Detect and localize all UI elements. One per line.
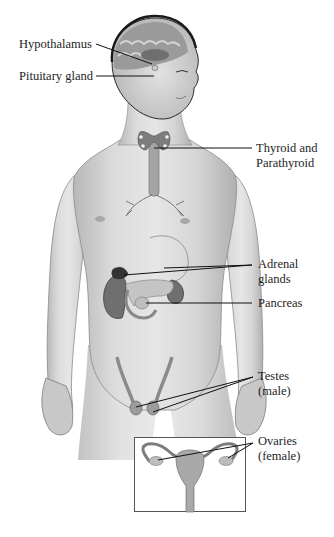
label-adrenal-line1: Adrenal — [258, 257, 298, 271]
label-pancreas: Pancreas — [258, 296, 302, 310]
uterus — [176, 450, 204, 512]
label-pituitary-gland: Pituitary gland — [19, 69, 93, 83]
left-ovary — [149, 457, 163, 466]
right-ovary — [219, 457, 233, 466]
label-hypothalamus: Hypothalamus — [19, 37, 92, 51]
label-thyroid-line1: Thyroid and — [256, 141, 317, 155]
label-thyroid-line2: Parathyroid — [256, 156, 314, 170]
label-testes-line1: Testes — [258, 369, 289, 383]
label-ovaries-line2: (female) — [258, 449, 300, 463]
ovaries-leaders — [158, 443, 253, 460]
label-ovaries-line1: Ovaries — [258, 434, 297, 448]
label-testes-line2: (male) — [258, 384, 291, 398]
label-adrenal-line2: glands — [258, 272, 291, 286]
endocrine-diagram: Hypothalamus Pituitary gland Thyroid and… — [0, 0, 334, 537]
